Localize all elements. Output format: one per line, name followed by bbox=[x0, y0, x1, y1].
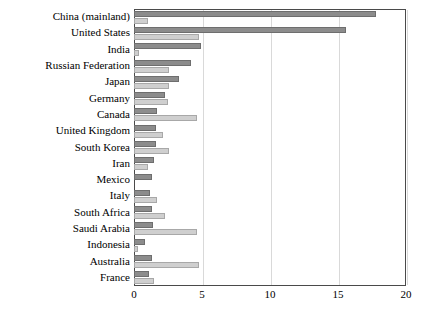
bar-group bbox=[134, 42, 406, 58]
bar-dark bbox=[134, 125, 156, 131]
bar-light bbox=[134, 34, 199, 40]
bar-dark bbox=[134, 92, 165, 98]
y-tick-label: South Africa bbox=[0, 207, 130, 218]
bar-light bbox=[134, 197, 157, 203]
bar-light bbox=[134, 148, 169, 154]
bar-dark bbox=[134, 141, 156, 147]
bar-dark bbox=[134, 11, 376, 17]
bar-light bbox=[134, 18, 148, 24]
gridline-20 bbox=[407, 10, 408, 285]
y-tick-label: Mexico bbox=[0, 174, 130, 185]
x-axis-labels: 05101520 bbox=[134, 289, 406, 307]
bar-light bbox=[134, 229, 197, 235]
y-tick-label: France bbox=[0, 272, 130, 283]
y-tick-label: South Korea bbox=[0, 142, 130, 153]
y-tick-label: Russian Federation bbox=[0, 60, 130, 71]
x-tick-label: 0 bbox=[131, 289, 137, 300]
y-tick-label: Germany bbox=[0, 93, 130, 104]
bar-group bbox=[134, 123, 406, 139]
bar-light bbox=[134, 213, 165, 219]
bar-dark bbox=[134, 108, 157, 114]
bar-dark bbox=[134, 255, 152, 261]
bar-light bbox=[134, 246, 138, 252]
bar-group bbox=[134, 25, 406, 41]
y-tick-label: Iran bbox=[0, 158, 130, 169]
y-tick-label: Indonesia bbox=[0, 239, 130, 250]
y-tick-label: India bbox=[0, 44, 130, 55]
bar-group bbox=[134, 74, 406, 90]
bar-light bbox=[134, 67, 169, 73]
y-tick-label: Canada bbox=[0, 109, 130, 120]
bar-group bbox=[134, 107, 406, 123]
y-tick-label: Japan bbox=[0, 76, 130, 87]
y-tick-label: United States bbox=[0, 27, 130, 38]
bar-group bbox=[134, 90, 406, 106]
bar-dark bbox=[134, 206, 152, 212]
bar-group bbox=[134, 237, 406, 253]
bar-light bbox=[134, 164, 148, 170]
x-tick-label: 20 bbox=[401, 289, 412, 300]
bar-dark bbox=[134, 239, 145, 245]
bar-group bbox=[134, 253, 406, 269]
bar-dark bbox=[134, 76, 179, 82]
bar-group bbox=[134, 58, 406, 74]
bar-dark bbox=[134, 60, 191, 66]
bar-chart: China (mainland)United StatesIndiaRussia… bbox=[0, 0, 421, 310]
bar-group bbox=[134, 172, 406, 188]
bar-light bbox=[134, 50, 139, 56]
bar-group bbox=[134, 9, 406, 25]
bar-light bbox=[134, 83, 169, 89]
bar-light bbox=[134, 115, 197, 121]
bar-rows bbox=[134, 9, 406, 286]
bar-group bbox=[134, 188, 406, 204]
bar-light bbox=[134, 278, 154, 284]
bar-group bbox=[134, 221, 406, 237]
bar-group bbox=[134, 156, 406, 172]
y-tick-label: Italy bbox=[0, 190, 130, 201]
y-axis-labels: China (mainland)United StatesIndiaRussia… bbox=[0, 9, 130, 286]
bar-dark bbox=[134, 27, 346, 33]
bar-dark bbox=[134, 157, 154, 163]
bar-group bbox=[134, 205, 406, 221]
x-tick-label: 5 bbox=[199, 289, 205, 300]
bar-light bbox=[134, 99, 168, 105]
bar-dark bbox=[134, 222, 153, 228]
y-tick-label: Saudi Arabia bbox=[0, 223, 130, 234]
bar-dark bbox=[134, 190, 150, 196]
y-tick-label: China (mainland) bbox=[0, 11, 130, 22]
bar-light bbox=[134, 132, 163, 138]
bar-group bbox=[134, 270, 406, 286]
bar-dark bbox=[134, 174, 152, 180]
x-tick-label: 10 bbox=[265, 289, 276, 300]
x-tick-label: 15 bbox=[333, 289, 344, 300]
bar-dark bbox=[134, 271, 149, 277]
y-tick-label: Australia bbox=[0, 256, 130, 267]
bar-group bbox=[134, 139, 406, 155]
bar-light bbox=[134, 262, 199, 268]
y-tick-label: United Kingdom bbox=[0, 125, 130, 136]
bar-dark bbox=[134, 43, 201, 49]
